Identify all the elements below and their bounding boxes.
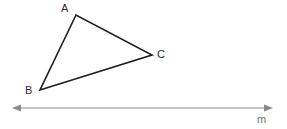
line-label-m: m xyxy=(257,114,266,125)
vertex-label-a: A xyxy=(61,3,68,14)
vertex-label-b: B xyxy=(25,85,32,96)
line-m-left-arrowhead-icon xyxy=(12,105,21,112)
figure-canvas xyxy=(0,0,287,129)
vertex-label-c: C xyxy=(157,49,165,60)
triangle-abc-shape xyxy=(40,15,152,90)
geometry-figure: A B C m xyxy=(0,0,287,129)
line-m-right-arrowhead-icon xyxy=(264,105,273,112)
